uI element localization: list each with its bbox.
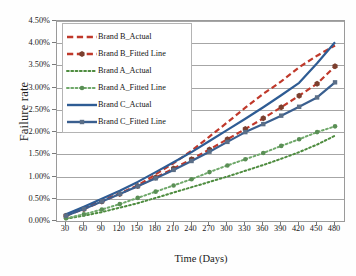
data-point-marker <box>297 137 302 142</box>
y-axis-tick-label: 0.50% <box>4 193 50 202</box>
series-brand-a-actual <box>66 136 335 219</box>
data-point-marker <box>118 192 122 196</box>
x-axis-tick-mark <box>155 222 156 226</box>
legend-item: Brand B_Fitted Line <box>66 45 188 62</box>
data-point-marker <box>243 157 248 162</box>
x-axis-tick-mark <box>298 222 299 226</box>
y-axis-tick-label: 2.50% <box>4 104 50 113</box>
legend-label: Brand B_Fitted Line <box>98 49 166 58</box>
data-point-marker <box>332 63 337 69</box>
data-point-marker <box>189 159 193 163</box>
y-axis-tick-label: 1.00% <box>4 171 50 180</box>
legend-key-icon <box>66 65 98 77</box>
y-axis-tick-label: 2.00% <box>4 127 50 136</box>
x-axis-tick-mark <box>262 222 263 226</box>
legend-key-icon <box>66 99 98 111</box>
x-axis-tick-mark <box>316 222 317 226</box>
data-point-marker <box>261 151 266 156</box>
y-axis-tick-label: 3.00% <box>4 82 50 91</box>
legend-key-icon <box>66 116 98 128</box>
legend-label: Brand C_Fitted Line <box>98 117 166 126</box>
legend-item: Brand A_Fitted Line <box>66 79 188 96</box>
x-axis-tick-mark <box>208 222 209 226</box>
x-axis-tick-mark <box>280 222 281 226</box>
data-point-marker <box>171 183 176 188</box>
legend-label: Brand B_Actual <box>98 32 151 41</box>
data-point-marker <box>207 149 211 153</box>
data-point-marker <box>153 189 158 194</box>
legend-item: Brand B_Actual <box>66 28 188 45</box>
legend-key-icon <box>66 31 98 43</box>
data-point-marker <box>279 113 283 117</box>
data-point-marker <box>79 51 84 57</box>
data-point-marker <box>333 80 337 84</box>
x-axis-tick-mark <box>65 222 66 226</box>
y-axis-tick-label: 4.00% <box>4 38 50 47</box>
data-point-marker <box>136 184 140 188</box>
x-axis-tick-mark <box>83 222 84 226</box>
x-axis-tick-mark <box>191 222 192 226</box>
data-point-marker <box>82 207 86 211</box>
series-brand-a-fitted-line <box>64 124 338 221</box>
data-point-marker <box>261 122 265 126</box>
x-axis-tick-mark <box>101 222 102 226</box>
legend-label: Brand A_Fitted Line <box>98 83 166 92</box>
data-point-marker <box>171 168 175 172</box>
chart-figure: Failure rate 0.00%0.50%1.00%1.50%2.00%2.… <box>0 0 356 276</box>
data-point-marker <box>333 124 338 129</box>
data-point-marker <box>243 130 247 134</box>
x-axis-tick-mark <box>137 222 138 226</box>
x-axis-tick-mark <box>334 222 335 226</box>
x-axis-title: Time (Days) <box>56 253 346 264</box>
data-point-marker <box>64 213 68 217</box>
y-axis-tick-label: 4.50% <box>4 16 50 25</box>
data-point-marker <box>207 170 212 175</box>
data-point-marker <box>100 199 104 203</box>
data-point-marker <box>80 119 84 123</box>
legend-key-icon <box>66 82 98 94</box>
x-axis-tick-mark <box>173 222 174 226</box>
y-axis-tick-label: 0.00% <box>4 216 50 225</box>
legend-item: Brand C_Actual <box>66 96 188 113</box>
legend-label: Brand A_Actual <box>98 66 151 75</box>
data-point-marker <box>135 196 140 201</box>
legend-item: Brand A_Actual <box>66 62 188 79</box>
series-path <box>66 136 335 219</box>
legend-label: Brand C_Actual <box>98 100 151 109</box>
data-point-marker <box>225 140 229 144</box>
legend-key-icon <box>66 48 98 60</box>
x-axis-tick-mark <box>226 222 227 226</box>
chart-legend: Brand B_ActualBrand B_Fitted LineBrand A… <box>62 23 192 133</box>
data-point-marker <box>225 163 230 168</box>
data-point-marker <box>80 85 85 90</box>
data-point-marker <box>117 202 122 207</box>
data-point-marker <box>82 212 87 217</box>
data-point-marker <box>100 207 105 212</box>
x-axis-tick-mark <box>244 222 245 226</box>
data-point-marker <box>279 144 284 149</box>
series-path <box>66 126 335 218</box>
y-axis-tick-label: 3.50% <box>4 60 50 69</box>
x-axis-tick-mark <box>119 222 120 226</box>
data-point-marker <box>297 105 301 109</box>
data-point-marker <box>315 130 320 135</box>
data-point-marker <box>153 176 157 180</box>
y-axis-tick-label: 1.50% <box>4 149 50 158</box>
data-point-marker <box>315 95 319 99</box>
data-point-marker <box>189 177 194 182</box>
legend-item: Brand C_Fitted Line <box>66 113 188 130</box>
